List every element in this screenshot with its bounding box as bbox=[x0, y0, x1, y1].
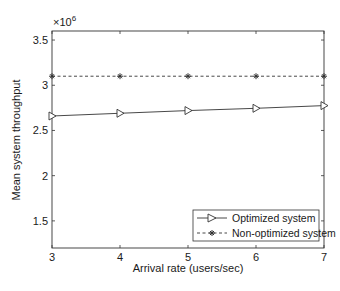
y-tick-label: 3.5 bbox=[33, 34, 48, 46]
x-tick-label: 4 bbox=[117, 251, 123, 263]
x-tick-label: 7 bbox=[321, 251, 327, 263]
y-tick-label: 2.5 bbox=[33, 124, 48, 136]
x-tick-label: 6 bbox=[253, 251, 259, 263]
x-axis-label: Arrival rate (users/sec) bbox=[133, 262, 244, 274]
legend-label-optimized: Optimized system bbox=[232, 212, 316, 224]
line-chart: 1.522.533.5 34567 ×106 Arrival rate (use… bbox=[0, 0, 340, 291]
y-axis-multiplier: ×106 bbox=[53, 14, 77, 28]
legend: Optimized system Non-optimized system bbox=[193, 210, 336, 241]
triangle-marker bbox=[321, 102, 328, 110]
y-tick-label: 3 bbox=[42, 79, 48, 91]
y-tick-label: 2 bbox=[42, 170, 48, 182]
legend-label-non-optimized: Non-optimized system bbox=[232, 227, 336, 239]
y-tick-label: 1.5 bbox=[33, 215, 48, 227]
y-axis-label: Mean system throughput bbox=[10, 79, 22, 200]
x-tick-label: 3 bbox=[49, 251, 55, 263]
